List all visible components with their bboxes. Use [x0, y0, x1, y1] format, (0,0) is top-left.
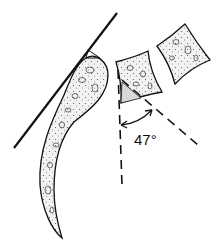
curved-bone [40, 56, 108, 238]
square-bone-2 [157, 24, 210, 84]
anatomical-angle-diagram: 47° [0, 0, 217, 246]
angle-label: 47° [134, 131, 157, 148]
angle-arc [121, 110, 152, 125]
